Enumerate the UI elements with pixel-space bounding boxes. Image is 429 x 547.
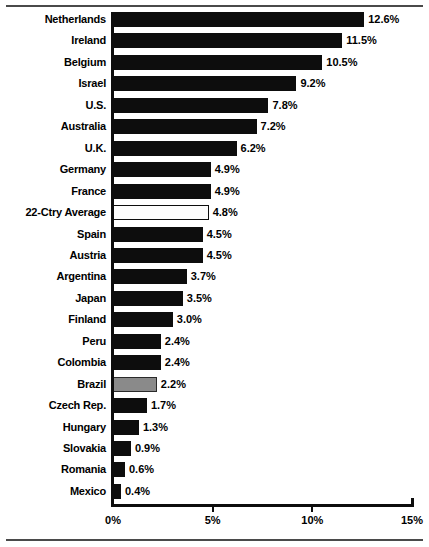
category-label: Austria [0, 248, 106, 263]
bar-value-label: 3.5% [187, 291, 212, 306]
bar-value-label: 1.7% [151, 398, 176, 413]
bar-row: Netherlands12.6% [0, 12, 429, 27]
category-label: Israel [0, 76, 106, 91]
category-label: Argentina [0, 269, 106, 284]
bar-value-label: 9.2% [300, 76, 325, 91]
bar-row: Mexico0.4% [0, 484, 429, 499]
bar-row: Hungary1.3% [0, 420, 429, 435]
category-label: Netherlands [0, 12, 106, 27]
bar [113, 76, 296, 91]
bar-value-label: 3.0% [177, 312, 202, 327]
bar [113, 398, 147, 413]
category-label: Czech Rep. [0, 398, 106, 413]
category-label: Spain [0, 227, 106, 242]
bar [113, 269, 187, 284]
bar [113, 291, 183, 306]
bar [113, 184, 211, 199]
x-axis-tick-label: 10% [301, 514, 323, 526]
bar-value-label: 4.5% [207, 248, 232, 263]
bar [113, 162, 211, 177]
category-label: U.S. [0, 98, 106, 113]
y-axis-spine [111, 12, 114, 507]
bar [113, 98, 268, 113]
category-label: Germany [0, 162, 106, 177]
bar-row: Japan3.5% [0, 291, 429, 306]
category-label: France [0, 184, 106, 199]
bar [113, 355, 161, 370]
bar-value-label: 10.5% [326, 55, 357, 70]
bottom-divider-rule [6, 539, 423, 541]
bar-value-label: 3.7% [191, 269, 216, 284]
bar-row: Brazil2.2% [0, 377, 429, 392]
category-label: Peru [0, 334, 106, 349]
x-axis-tick-label: 5% [205, 514, 221, 526]
category-label: Hungary [0, 420, 106, 435]
category-label: U.K. [0, 141, 106, 156]
category-label: Japan [0, 291, 106, 306]
bar-row: Germany4.9% [0, 162, 429, 177]
bar [113, 33, 342, 48]
bar-row: Czech Rep.1.7% [0, 398, 429, 413]
bar-row: Belgium10.5% [0, 55, 429, 70]
x-axis-tick [111, 498, 114, 507]
category-label: Belgium [0, 55, 106, 70]
bar-value-label: 2.4% [165, 355, 190, 370]
bar-row: Israel9.2% [0, 76, 429, 91]
bar-value-label: 2.4% [165, 334, 190, 349]
bar-value-label: 0.6% [129, 462, 154, 477]
category-label: Australia [0, 119, 106, 134]
category-label: 22-Ctry Average [0, 205, 106, 220]
bar-value-label: 11.5% [346, 33, 377, 48]
bar-row: Finland3.0% [0, 312, 429, 327]
bar-row: Austria4.5% [0, 248, 429, 263]
bar-row: Argentina3.7% [0, 269, 429, 284]
bar-row: Colombia2.4% [0, 355, 429, 370]
bar-value-label: 4.5% [207, 227, 232, 242]
bar-value-label: 0.4% [125, 484, 150, 499]
bar-row: Spain4.5% [0, 227, 429, 242]
category-label: Brazil [0, 377, 106, 392]
bar-row: Peru2.4% [0, 334, 429, 349]
bar-row: Australia7.2% [0, 119, 429, 134]
x-axis-tick [311, 507, 313, 512]
bar [113, 227, 203, 242]
bar-row: Ireland11.5% [0, 33, 429, 48]
bar [113, 141, 237, 156]
bar [113, 12, 364, 27]
bar [113, 377, 157, 392]
x-axis-tick [411, 498, 414, 507]
bar-value-label: 4.9% [215, 162, 240, 177]
category-label: Mexico [0, 484, 106, 499]
bar-row: Slovakia0.9% [0, 441, 429, 456]
x-axis-tick-label: 0% [105, 514, 121, 526]
bar-value-label: 12.6% [368, 12, 399, 27]
category-label: Romania [0, 462, 106, 477]
bar-row: U.S.7.8% [0, 98, 429, 113]
bar-value-label: 2.2% [161, 377, 186, 392]
bar [113, 420, 139, 435]
x-axis-line [111, 504, 414, 507]
bar [113, 205, 209, 220]
bar-value-label: 0.9% [135, 441, 160, 456]
bar [113, 248, 203, 263]
category-label: Slovakia [0, 441, 106, 456]
category-label: Colombia [0, 355, 106, 370]
bar [113, 484, 121, 499]
bar-row: U.K.6.2% [0, 141, 429, 156]
bar [113, 55, 322, 70]
chart-figure: Netherlands12.6%Ireland11.5%Belgium10.5%… [0, 0, 429, 547]
bar [113, 312, 173, 327]
x-axis-tick-label: 15% [401, 514, 423, 526]
top-divider-rule [6, 5, 423, 7]
bar-value-label: 6.2% [241, 141, 266, 156]
x-axis-tick [212, 507, 214, 512]
bar-row: 22-Ctry Average4.8% [0, 205, 429, 220]
bar [113, 334, 161, 349]
bar [113, 119, 257, 134]
bar-value-label: 7.8% [272, 98, 297, 113]
bar [113, 462, 125, 477]
bar-value-label: 4.8% [213, 205, 238, 220]
bar-row: France4.9% [0, 184, 429, 199]
bar-value-label: 4.9% [215, 184, 240, 199]
bar-value-label: 1.3% [143, 420, 168, 435]
